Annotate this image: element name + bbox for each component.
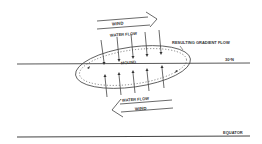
water-flow-label-top: WATER FLOW xyxy=(110,31,138,38)
wind-label-bottom: WIND xyxy=(135,106,147,112)
wind-arrow-right xyxy=(97,12,157,29)
latitude-30n-label: 30°N xyxy=(225,57,234,62)
mound-ellipse xyxy=(73,39,193,95)
resulting-gradient-flow-label: RESULTING GRADIENT FLOW xyxy=(172,40,230,45)
equator-line xyxy=(17,136,250,137)
equator-label: EQUATOR xyxy=(223,130,243,135)
water-flow-arrows-up xyxy=(105,68,164,97)
mound-label: MOUND xyxy=(121,59,137,65)
ocean-gyre-diagram: WIND WATER FLOW RESULTING GRADIENT FLOW … xyxy=(0,0,262,144)
gradient-flow-dashed xyxy=(77,43,189,92)
wind-label-top: WIND xyxy=(112,21,124,27)
